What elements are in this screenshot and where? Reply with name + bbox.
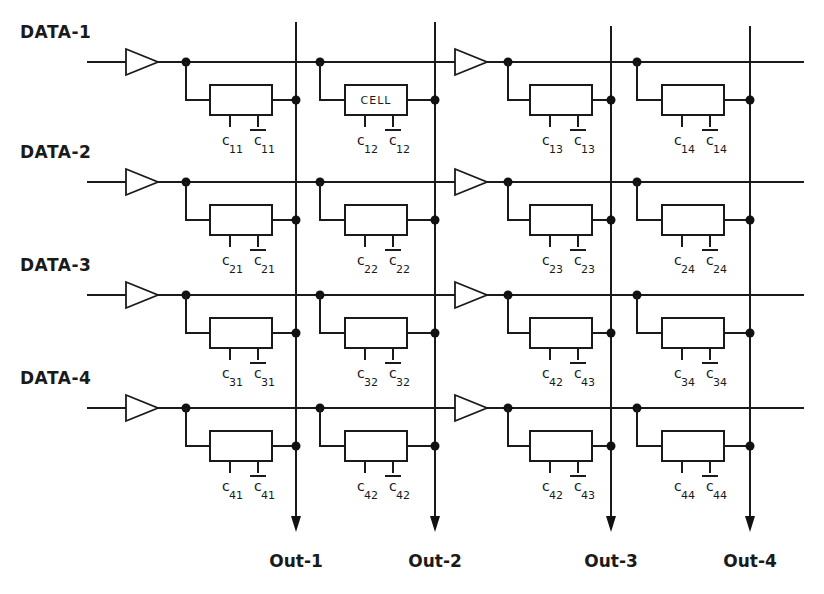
control-subscript: 34 — [681, 376, 695, 389]
buffer-amplifier-icon — [126, 49, 158, 75]
data-rows: c11c11CELLc12c12c13c13c14c14c21c21c22c22… — [87, 49, 804, 502]
cell-input-wire — [186, 408, 210, 446]
data-line-label: DATA-2 — [20, 142, 91, 162]
cell-box — [662, 85, 724, 115]
junction-dot — [746, 442, 755, 451]
buffer-amplifier-icon — [455, 49, 487, 75]
cell-input-wire — [637, 182, 662, 220]
control-subscript: 41 — [261, 489, 275, 502]
cell-input-wire — [186, 62, 210, 100]
memory-cell-4-1: c41c41 — [182, 404, 301, 503]
memory-cell-3-3: c42c43 — [504, 291, 616, 390]
junction-dot — [292, 442, 301, 451]
data-row-1: c11c11CELLc12c12c13c13c14c14 — [87, 49, 804, 156]
control-subscript: 11 — [229, 143, 243, 156]
cell-box — [210, 205, 272, 235]
control-subscript: 13 — [549, 143, 563, 156]
junction-dot — [746, 329, 755, 338]
output-label: Out-1 — [269, 551, 323, 571]
output-label: Out-3 — [584, 551, 638, 571]
data-line-label: DATA-3 — [20, 255, 91, 275]
buffer-amplifier-icon — [455, 282, 487, 308]
memory-cell-2-4: c24c24 — [633, 178, 755, 277]
memory-cell-2-3: c23c23 — [504, 178, 616, 277]
control-subscript: 32 — [364, 376, 378, 389]
control-subscript: 12 — [364, 143, 378, 156]
buffer-amplifier-icon — [126, 395, 158, 421]
buffer-amplifier-icon — [126, 282, 158, 308]
control-subscript: 31 — [229, 376, 243, 389]
junction-dot — [746, 96, 755, 105]
cell-input-wire — [637, 408, 662, 446]
cell-box — [345, 205, 407, 235]
control-subscript: 43 — [581, 376, 595, 389]
cell-box — [530, 205, 592, 235]
control-subscript: 42 — [364, 489, 378, 502]
control-subscript: 23 — [549, 263, 563, 276]
control-subscript: 22 — [396, 263, 410, 276]
memory-cell-1-2: CELLc12c12 — [316, 58, 440, 157]
buffer-amplifier-icon — [126, 169, 158, 195]
control-subscript: 43 — [581, 489, 595, 502]
cell-input-wire — [320, 182, 345, 220]
memory-cell-4-3: c42c43 — [504, 404, 616, 503]
junction-dot — [431, 216, 440, 225]
junction-dot — [746, 216, 755, 225]
cell-box — [530, 431, 592, 461]
control-subscript: 21 — [229, 263, 243, 276]
cell-box — [662, 318, 724, 348]
memory-cell-3-2: c32c32 — [316, 291, 440, 390]
cell-input-wire — [320, 408, 345, 446]
cell-input-wire — [508, 182, 530, 220]
junction-dot — [292, 96, 301, 105]
cell-box — [345, 318, 407, 348]
output-label: Out-4 — [723, 551, 777, 571]
control-subscript: 41 — [229, 489, 243, 502]
data-row-4: c41c41c42c42c42c43c44c44 — [87, 395, 804, 502]
memory-cell-array-diagram: c11c11CELLc12c12c13c13c14c14c21c21c22c22… — [0, 0, 824, 594]
cell-box — [662, 431, 724, 461]
cell-box — [345, 431, 407, 461]
memory-cell-1-3: c13c13 — [504, 58, 616, 157]
arrow-down-icon — [606, 516, 616, 532]
control-subscript: 42 — [549, 376, 563, 389]
control-subscript: 14 — [713, 143, 727, 156]
cell-box — [210, 85, 272, 115]
control-subscript: 42 — [549, 489, 563, 502]
cell-input-wire — [186, 182, 210, 220]
data-row-2: c21c21c22c22c23c23c24c24 — [87, 169, 804, 276]
control-subscript: 44 — [713, 489, 727, 502]
junction-dot — [607, 329, 616, 338]
control-subscript: 12 — [396, 143, 410, 156]
control-subscript: 24 — [681, 263, 695, 276]
junction-dot — [607, 442, 616, 451]
buffer-amplifier-icon — [455, 169, 487, 195]
cell-box — [530, 85, 592, 115]
memory-cell-1-4: c14c14 — [633, 58, 755, 157]
cell-input-wire — [508, 295, 530, 333]
junction-dot — [607, 216, 616, 225]
junction-dot — [292, 216, 301, 225]
cell-input-wire — [186, 295, 210, 333]
memory-cell-2-1: c21c21 — [182, 178, 301, 277]
control-subscript: 23 — [581, 263, 595, 276]
junction-dot — [292, 329, 301, 338]
control-subscript: 21 — [261, 263, 275, 276]
control-subscript: 11 — [261, 143, 275, 156]
memory-cell-3-4: c34c34 — [633, 291, 755, 390]
control-subscript: 13 — [581, 143, 595, 156]
cell-input-wire — [320, 295, 345, 333]
cell-input-wire — [320, 62, 345, 100]
cell-box — [662, 205, 724, 235]
memory-cell-3-1: c31c31 — [182, 291, 301, 390]
output-label: Out-2 — [408, 551, 462, 571]
junction-dot — [431, 442, 440, 451]
data-line-label: DATA-4 — [20, 368, 91, 388]
cell-input-wire — [508, 62, 530, 100]
control-subscript: 32 — [396, 376, 410, 389]
cell-box — [530, 318, 592, 348]
control-subscript: 44 — [681, 489, 695, 502]
control-subscript: 34 — [713, 376, 727, 389]
control-subscript: 14 — [681, 143, 695, 156]
cell-input-wire — [637, 62, 662, 100]
